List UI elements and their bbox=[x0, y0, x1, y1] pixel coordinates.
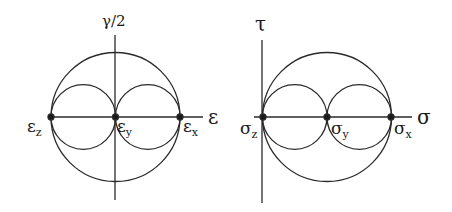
symbol: ε bbox=[27, 116, 36, 136]
mohr-circles-figure bbox=[0, 0, 452, 212]
epsilon-axis-label: ε bbox=[208, 107, 218, 127]
subscript: z bbox=[36, 126, 42, 139]
subscript: y bbox=[343, 128, 349, 141]
subscript: z bbox=[252, 128, 258, 141]
symbol: ε bbox=[183, 116, 192, 136]
point-ez bbox=[48, 114, 54, 120]
subscript: y bbox=[126, 126, 132, 139]
subscript: x bbox=[192, 126, 198, 139]
sigma-axis-label: σ bbox=[417, 107, 431, 127]
symbol: σ bbox=[240, 118, 252, 138]
label-epsilon-z: εz bbox=[27, 118, 42, 135]
point-sy bbox=[324, 114, 330, 120]
point-sz bbox=[260, 114, 266, 120]
symbol: ε bbox=[117, 116, 126, 136]
label-epsilon-y: εy bbox=[117, 118, 132, 135]
symbol: σ bbox=[394, 118, 406, 138]
symbol: σ bbox=[331, 118, 343, 138]
label-sigma-z: σz bbox=[240, 120, 257, 137]
gamma-half-axis-label: γ/2 bbox=[102, 14, 126, 29]
subscript: x bbox=[406, 128, 412, 141]
label-epsilon-x: εx bbox=[183, 118, 198, 135]
tau-axis-label: τ bbox=[255, 14, 266, 34]
label-sigma-y: σy bbox=[331, 120, 349, 137]
label-sigma-x: σx bbox=[394, 120, 412, 137]
